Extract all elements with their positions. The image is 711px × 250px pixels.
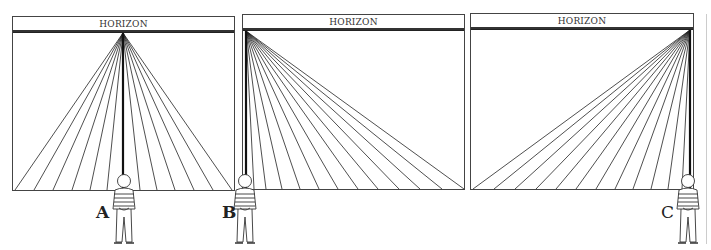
perspective-lines: [242, 14, 465, 190]
panel-a: HORIZON: [12, 16, 235, 191]
perspective-lines: [12, 16, 235, 191]
page-edge: [706, 14, 707, 244]
viewer-label-c: C: [661, 202, 674, 222]
viewer-label-a: A: [96, 202, 109, 222]
viewer-label-b: B: [222, 202, 236, 222]
panel-b: HORIZON: [242, 14, 465, 190]
viewer-b-figure: [232, 172, 262, 250]
perspective-lines: [470, 13, 694, 190]
viewer-a-figure: [111, 172, 141, 250]
panel-c: HORIZON: [470, 13, 694, 190]
viewer-c-figure: [675, 172, 705, 250]
